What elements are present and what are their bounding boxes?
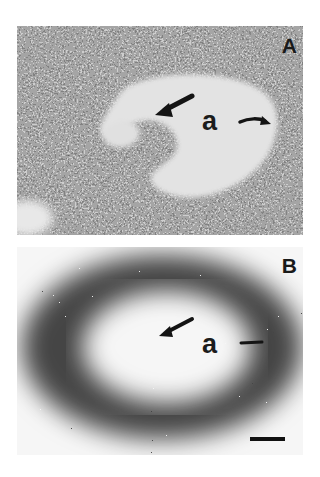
- panel-label-b: B: [282, 255, 297, 276]
- panel-b-autoradiograph: B a: [17, 247, 303, 455]
- region-label-a: a: [202, 108, 217, 135]
- panel-label-a: A: [282, 35, 297, 56]
- panel-a-micrograph: A a: [17, 26, 303, 235]
- short-arrow-icon: [241, 342, 262, 343]
- scale-bar: [250, 437, 285, 441]
- autoradiograph-image: [17, 247, 303, 455]
- region-label-b: a: [202, 331, 217, 358]
- histology-image: [17, 26, 303, 235]
